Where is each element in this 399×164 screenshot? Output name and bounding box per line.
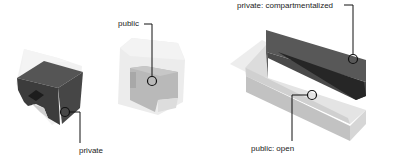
model-public <box>118 24 185 115</box>
model-bar <box>230 5 366 141</box>
label-private-compartmentalized: private: compartmentalized <box>237 1 333 10</box>
label-private: private <box>79 146 103 155</box>
label-public-open: public: open <box>251 144 294 153</box>
label-public: public <box>118 19 139 28</box>
diagram-canvas: private public private: compartmentalize… <box>0 0 399 164</box>
model-private <box>16 49 83 143</box>
massing-models-graphic <box>0 0 399 164</box>
